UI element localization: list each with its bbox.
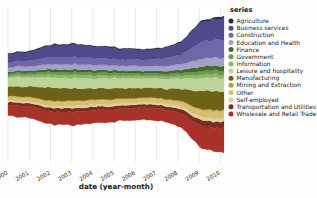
legend-label[interactable]: Government — [237, 54, 274, 60]
legend-swatch-icon[interactable] — [229, 54, 234, 59]
legend-swatch-icon[interactable] — [229, 111, 234, 116]
legend-label[interactable]: Construction — [237, 32, 275, 38]
legend-swatch-icon[interactable] — [229, 61, 234, 66]
legend-swatch-icon[interactable] — [229, 26, 234, 31]
legend-label[interactable]: Manufacturing — [237, 75, 280, 82]
x-axis-title: date (year-month) — [79, 182, 153, 191]
legend-swatch-icon[interactable] — [229, 47, 234, 52]
legend-swatch-icon[interactable] — [229, 76, 234, 81]
streamgraph-svg: 2000200120022003200420052006200720082009… — [0, 0, 317, 198]
legend-label[interactable]: Transportation and Utilities — [236, 104, 317, 111]
legend-label[interactable]: Agriculture — [237, 18, 270, 25]
legend-label[interactable]: Information — [237, 61, 271, 67]
legend-swatch-icon[interactable] — [229, 33, 234, 38]
legend-swatch-icon[interactable] — [229, 40, 234, 45]
legend-label[interactable]: Other — [237, 90, 254, 96]
legend-label[interactable]: Finance — [237, 47, 260, 53]
legend-swatch-icon[interactable] — [229, 90, 234, 95]
legend-swatch-icon[interactable] — [229, 83, 234, 88]
legend-label[interactable]: Mining and Extraction — [237, 82, 302, 89]
legend-label[interactable]: Self-employed — [237, 97, 279, 104]
legend-label[interactable]: Leisure and hospitality — [237, 68, 304, 75]
legend-label[interactable]: Business services — [237, 25, 289, 31]
legend-swatch-icon[interactable] — [229, 19, 234, 24]
legend-label[interactable]: Education and Health — [237, 40, 301, 46]
legend-label[interactable]: Wholesale and Retail Trade — [237, 111, 317, 117]
legend-title: series — [230, 6, 252, 14]
legend-swatch-icon[interactable] — [229, 97, 234, 102]
legend-swatch-icon[interactable] — [229, 104, 234, 109]
legend-swatch-icon[interactable] — [229, 69, 234, 74]
chart-figure: 2000200120022003200420052006200720082009… — [0, 0, 317, 198]
